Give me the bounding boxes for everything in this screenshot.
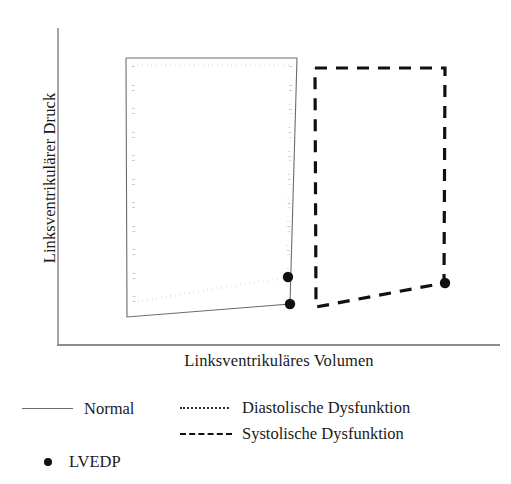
plot-area: Linksventrikulärer Druck Linksventrikulä… [0,0,511,370]
legend-swatch-normal [22,408,73,409]
legend-label-systolic: Systolische Dysfunktion [242,421,404,447]
legend-label-normal: Normal [84,396,134,422]
pv-loop-systolische [315,68,445,307]
lvedp-marker [283,272,293,282]
legend-swatch-lvedp [44,458,52,466]
lvedp-marker [440,278,450,288]
legend-swatch-systolic [180,433,232,435]
lvedp-markers-group [283,272,450,309]
pv-loop-svg [0,0,511,370]
pv-loop-normal [126,58,297,317]
y-axis-label: Linksventrikulärer Druck [40,43,60,313]
pv-loop-diastolische [133,65,291,302]
legend-label-diastolic: Diastolische Dysfunktion [242,395,410,421]
x-axis-label: Linksventrikuläres Volumen [58,351,500,371]
legend-label-lvedp: LVEDP [69,449,121,475]
pv-loop-figure: Linksventrikulärer Druck Linksventrikulä… [0,0,511,484]
legend: NormalDiastolische DysfunktionSystolisch… [0,392,511,484]
legend-swatch-diastolic [180,407,229,409]
lvedp-marker [285,299,295,309]
